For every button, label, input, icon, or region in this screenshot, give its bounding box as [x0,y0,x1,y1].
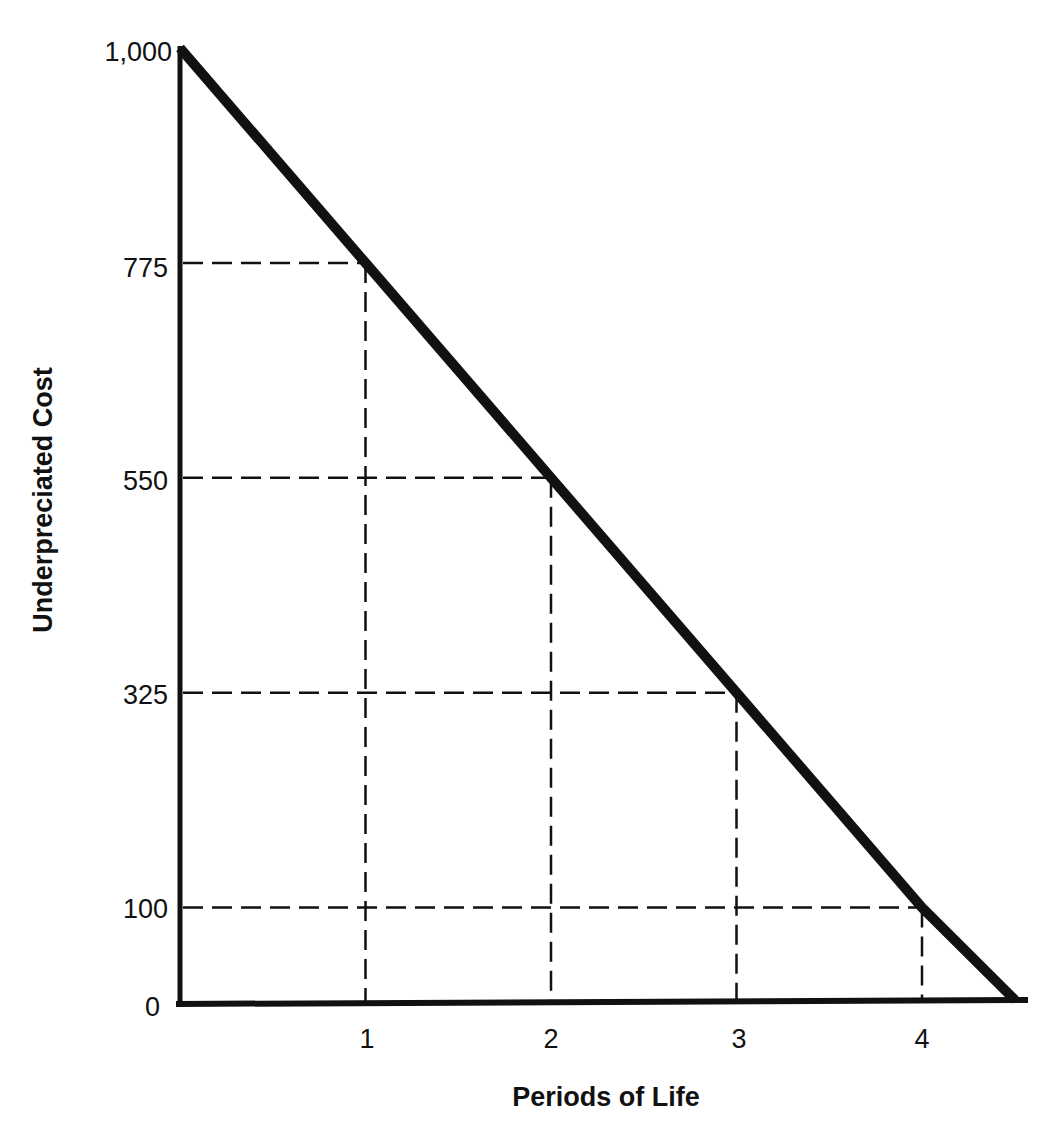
y-tick-label: 1,000 [104,37,172,67]
y-tick-labels: 1,000 775 550 325 100 0 [104,37,172,1022]
x-tick-label: 4 [914,1024,929,1054]
x-tick-label: 3 [731,1024,746,1054]
depreciation-chart: 1,000 775 550 325 100 0 1 2 3 4 Periods … [0,0,1060,1134]
x-tick-label: 1 [359,1024,374,1054]
x-tick-labels: 1 2 3 4 [359,1024,929,1054]
x-axis [176,1000,1028,1004]
x-tick-label: 2 [543,1024,558,1054]
y-tick-label: 0 [145,992,160,1022]
y-tick-label: 550 [123,466,168,496]
y-tick-label: 325 [123,680,168,710]
x-axis-title: Periods of Life [512,1082,700,1112]
dashed-guide-lines [183,263,922,1001]
y-tick-label: 100 [123,894,168,924]
y-tick-label: 775 [123,253,168,283]
depreciation-line [180,48,1015,1000]
y-axis-title: Underpreciated Cost [28,367,58,633]
